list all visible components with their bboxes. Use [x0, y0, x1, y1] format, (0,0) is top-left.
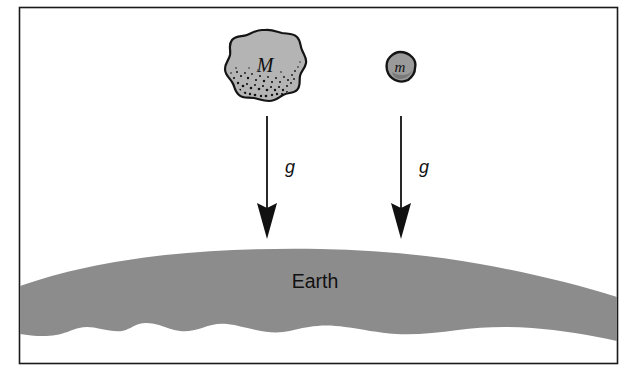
small-mass-body: m — [387, 52, 416, 82]
earth-crust-shape — [20, 249, 617, 341]
gravity-arrow-right-head — [391, 203, 411, 239]
gravity-label-right: g — [419, 157, 429, 177]
large-mass-body: M — [225, 30, 306, 101]
physics-diagram-figure: Earth — [0, 0, 629, 380]
diagram-canvas: Earth — [0, 0, 629, 380]
large-mass-label: M — [256, 54, 275, 76]
gravity-arrow-right: g — [391, 116, 429, 239]
small-mass-label: m — [395, 59, 406, 75]
earth-label: Earth — [292, 270, 339, 292]
gravity-arrow-left-head — [257, 203, 277, 239]
gravity-label-left: g — [285, 157, 295, 177]
earth-band: Earth — [20, 249, 617, 341]
gravity-arrow-left: g — [257, 116, 295, 239]
